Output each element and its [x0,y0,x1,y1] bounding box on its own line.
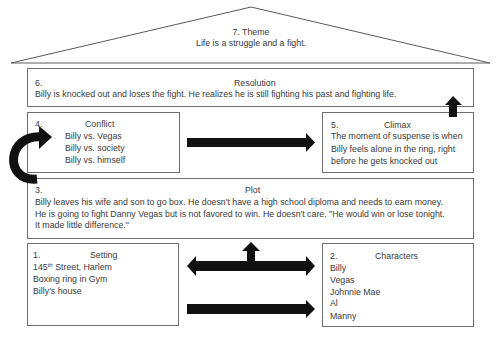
setting-title: Setting [90,249,117,261]
setting-street-number: 145 [33,262,48,272]
setting-number: 1. [33,249,40,261]
resolution-box: 6. Resolution Billy is knocked out and l… [27,68,474,107]
climax-box: 5. Climax The moment of suspense is when… [322,112,474,173]
setting-box: 1. Setting 145th Street, Harlem Boxing r… [27,243,179,326]
plot-title: Plot [245,184,260,196]
setting-line: 145th Street, Harlem [33,261,112,273]
character-item: Vegas [330,274,354,286]
theme-heading: 7. Theme [0,27,502,38]
setting-street-name: Street, Harlem [53,262,112,272]
plot-line: It made little difference." [35,219,129,231]
conflict-number: 4. [35,118,42,130]
climax-line: Billy feels alone in the ring, right [331,143,455,155]
character-item: Billy [330,262,346,274]
resolution-line: Billy is knocked out and loses the fight… [35,88,396,100]
characters-number: 2. [330,250,337,262]
climax-line: before he gets knocked out [331,155,437,167]
conflict-box: 4. Conflict Billy vs. Vegas Billy vs. so… [27,112,180,173]
character-item: Manny [330,310,356,322]
plot-box: 3. Plot Billy leaves his wife and son to… [27,178,474,239]
setting-line: Boxing ring in Gym [33,273,107,285]
conflict-line: Billy vs. Vegas [65,130,122,142]
climax-line: The moment of suspense is when [331,130,463,142]
conflict-title: Conflict [85,118,114,130]
conflict-line: Billy vs. himself [65,154,125,166]
characters-box: 2. Characters Billy Vegas Johnnie Mae Al… [322,243,474,327]
plot-number: 3. [35,184,42,196]
characters-title: Characters [375,250,418,262]
setting-line: Billy's house [33,285,82,297]
plot-line: Billy leaves his wife and son to go box.… [35,196,443,208]
character-item: Al [330,297,338,309]
conflict-line: Billy vs. society [65,142,125,154]
theme-text: Life is a struggle and a fight. [0,38,502,49]
